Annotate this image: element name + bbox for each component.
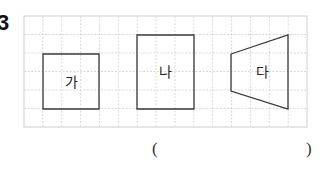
answer-blank[interactable] [165,138,303,160]
answer-open-paren: ( [152,140,158,157]
shapes: 가나다 [43,35,288,109]
answer-close-paren: ) [306,140,312,157]
shape-label: 가 [65,74,78,90]
shape-label: 나 [159,64,172,80]
shape-label: 다 [256,64,269,80]
